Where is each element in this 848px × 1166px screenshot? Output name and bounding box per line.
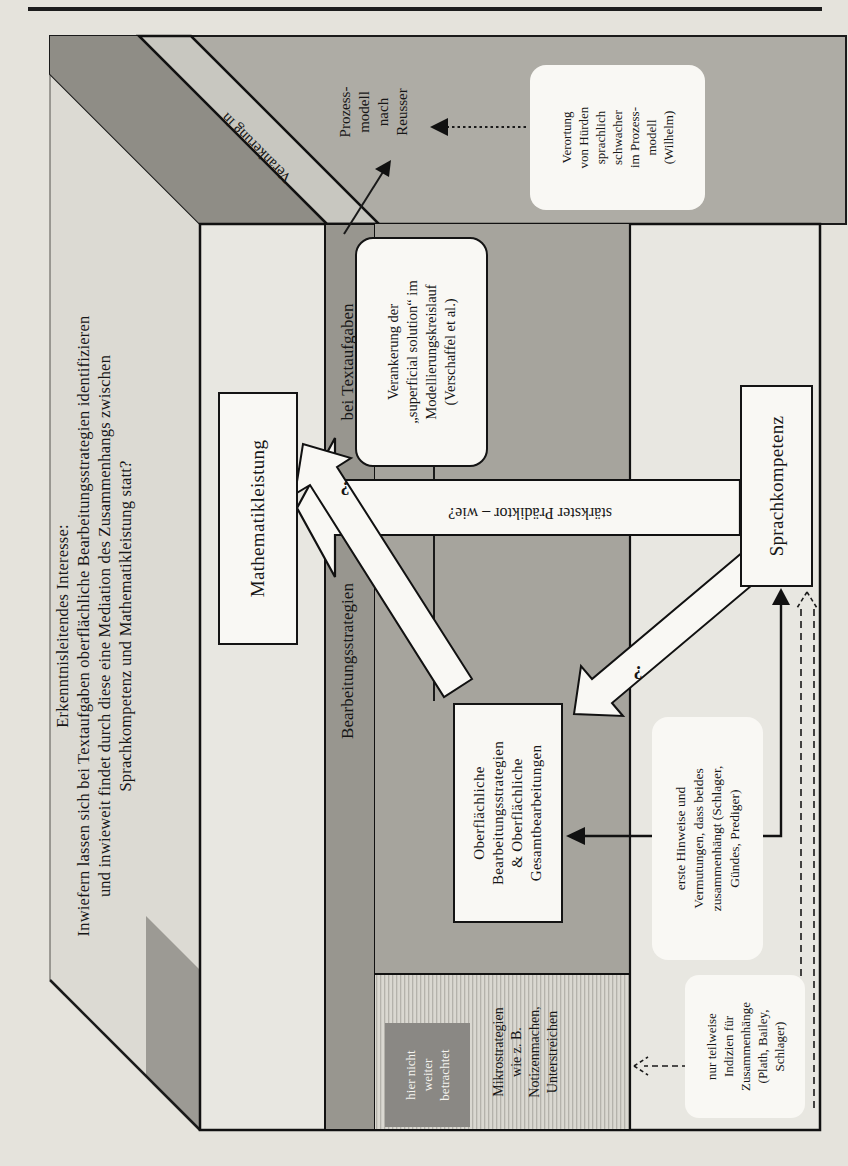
verortung-line: von Hürden	[575, 107, 592, 169]
mikrostrategien-line: Unterstreichen	[544, 978, 562, 1126]
node-oberflaechliche-bearbeitungen: Oberflächliche Bearbeitungsstrategien & …	[453, 703, 563, 923]
superficial-line: Modellierungskreislauf	[422, 284, 441, 419]
callout-nur-teilweise: nur teilweise Indizien für Zusammenhänge…	[685, 975, 805, 1118]
node-mathematikleistung: Mathematikleistung	[218, 392, 298, 645]
superficial-line: Verankerung der	[384, 304, 403, 400]
hier-nicht-line: betrachtet	[436, 1023, 453, 1127]
erste-hinweise-line: Vermutungen, dass beides	[690, 768, 708, 909]
hier-nicht-line: hier nicht	[402, 1023, 419, 1127]
title-line: Erkenntnisleitendes Interesse:	[52, 146, 73, 1106]
prozessmodell-line: Prozess-	[336, 64, 355, 160]
column-header-bearbeitungsstrategien: Bearbeitungsstrategien	[338, 511, 358, 811]
nur-teilweise-line: Indizien für	[720, 1016, 737, 1077]
mikrostrategien-label: Mikrostrategien wie z. B. Notizenmachen,…	[490, 978, 562, 1126]
mikrostrategien-line: Mikrostrategien	[490, 978, 508, 1126]
title-line: Inwiefern lassen sich bei Textaufgaben o…	[73, 146, 94, 1106]
erste-hinweise-line: erste Hinweise und	[672, 787, 690, 890]
question-mark-lower-arrow: ?	[628, 662, 648, 682]
prozessmodell-line: Reusser	[393, 64, 412, 160]
erste-hinweise-line: zusammenhängt (Schlager,	[708, 766, 726, 912]
document-page: Erkenntnisleitendes Interesse: Inwiefern…	[0, 0, 848, 1166]
prozessmodell-line: nach	[374, 64, 393, 160]
mikrostrategien-line: wie z. B.	[508, 978, 526, 1126]
oberflaechlich-line: Gesamtbearbeitungen	[527, 745, 546, 881]
prozessmodell-label: Prozess- modell nach Reusser	[336, 64, 412, 160]
verortung-line: (Wilhelm)	[660, 111, 677, 165]
title-line: Sprachkompetenz und Mathematikleistung s…	[115, 146, 136, 1106]
callout-erste-hinweise: erste Hinweise und Vermutungen, dass bei…	[652, 717, 763, 960]
nur-teilweise-line: Zusammenhänge	[737, 1002, 754, 1091]
hier-nicht-line: weiter	[419, 1023, 436, 1127]
hier-nicht-betrachtet-box: hier nicht weiter betrachtet	[385, 1023, 470, 1127]
nur-teilweise-line: (Plath, Bailey,	[754, 1010, 771, 1084]
erste-hinweise-line: Gündes, Prediger)	[726, 789, 744, 887]
mikrostrategien-line: Notizenmachen,	[526, 978, 544, 1126]
title-line: und inwieweit findet durch diese eine Me…	[94, 146, 115, 1106]
nur-teilweise-line: Schlager)	[771, 1022, 788, 1072]
oberflaechlich-line: & Oberflächliche	[508, 758, 527, 867]
figure-title: Erkenntnisleitendes Interesse: Inwiefern…	[52, 146, 136, 1106]
main-arrow-label: stärkster Prädiktor – wie?	[380, 494, 680, 522]
superficial-line: (Verschaffel et al.)	[441, 298, 460, 405]
prozessmodell-line: modell	[355, 64, 374, 160]
verortung-line: sprachlich	[592, 111, 609, 164]
rotated-figure: Erkenntnisleitendes Interesse: Inwiefern…	[0, 0, 848, 1166]
callout-verortung: Verortung von Hürden sprachlich schwache…	[530, 65, 705, 210]
verortung-line: schwacher	[609, 110, 626, 165]
question-mark-upper-arrow: ?	[335, 478, 355, 498]
oberflaechlich-line: Oberflächliche	[470, 766, 489, 859]
oberflaechlich-line: Bearbeitungsstrategien	[489, 741, 508, 885]
node-sprachkompetenz: Sprachkompetenz	[740, 385, 813, 587]
verortung-line: modell	[643, 119, 660, 155]
callout-superficial-solution: Verankerung der „superficial solution“ i…	[355, 237, 488, 467]
nur-teilweise-line: nur teilweise	[703, 1013, 720, 1080]
verortung-line: Verortung	[558, 112, 575, 164]
superficial-line: „superficial solution“ im	[403, 280, 422, 423]
verortung-line: im Prozess-	[626, 107, 643, 168]
